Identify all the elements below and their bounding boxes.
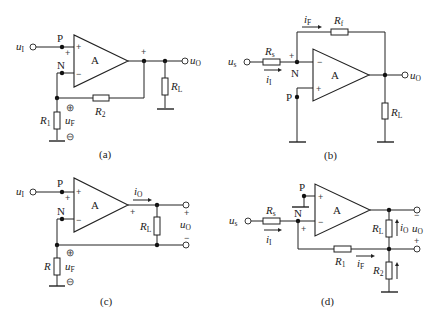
node-p (60, 45, 64, 49)
resistor-r (54, 258, 60, 275)
svg-text:RL: RL (139, 220, 152, 234)
svg-text:us: us (229, 214, 238, 228)
input-terminal (245, 218, 251, 224)
svg-text:uI: uI (16, 40, 25, 54)
svg-text:iO: iO (134, 185, 143, 199)
resistor-r2 (93, 95, 109, 101)
resistor-rs (263, 59, 280, 65)
svg-text:us: us (228, 55, 237, 69)
svg-text:P: P (57, 32, 63, 44)
svg-text:+: + (130, 207, 135, 217)
resistor-rf (331, 29, 348, 35)
svg-text:−: − (76, 215, 81, 225)
node-p (295, 95, 299, 99)
svg-text:iI: iI (266, 233, 272, 247)
svg-text:⊖: ⊖ (66, 276, 74, 287)
svg-text:iO: iO (400, 221, 409, 235)
output-terminal-plus (414, 246, 420, 252)
svg-text:−: − (414, 210, 419, 220)
svg-text:iI: iI (266, 73, 272, 87)
resistor-rs (263, 218, 280, 224)
input-terminal (30, 44, 36, 50)
svg-text:⊖: ⊖ (66, 131, 74, 142)
svg-text:RL: RL (170, 80, 183, 94)
svg-text:R1: R1 (39, 114, 51, 128)
svg-text:−: − (318, 217, 323, 227)
svg-text:⊕: ⊕ (66, 247, 74, 258)
resistor-r2 (386, 262, 392, 279)
svg-text:N: N (294, 207, 302, 219)
svg-text:R2: R2 (372, 264, 384, 278)
svg-text:+: + (76, 187, 81, 197)
svg-text:R: R (43, 260, 51, 272)
svg-text:R2: R2 (94, 105, 106, 119)
resistor-rl (162, 78, 168, 95)
circuit-c: uI P N + + − A + iO RL + uO − R uF ⊕ ⊖ (… (16, 177, 192, 308)
circuit-figure: uI P N + + − A + uO RL R2 R1 uF ⊕ ⊖ (a) (0, 0, 439, 320)
svg-text:P: P (57, 177, 63, 189)
svg-text:⊕: ⊕ (66, 102, 74, 113)
svg-text:−: − (317, 57, 322, 67)
svg-text:−: − (76, 69, 81, 79)
svg-text:RL: RL (390, 106, 403, 120)
op-amp (74, 35, 128, 87)
svg-text:uI: uI (16, 185, 25, 199)
input-terminal (244, 59, 250, 65)
svg-text:Rf: Rf (333, 14, 344, 28)
svg-text:A: A (91, 54, 99, 66)
svg-text:Rs: Rs (265, 204, 276, 218)
resistor-r1 (334, 246, 351, 252)
caption-d: (d) (321, 295, 334, 308)
svg-text:uO: uO (180, 218, 192, 232)
svg-text:+: + (289, 51, 294, 61)
circuit-d: us Rs iI N P + + − A RL iO − uO + R1 iF … (229, 181, 424, 308)
resistor-rl (386, 220, 392, 237)
svg-text:+: + (65, 48, 70, 58)
svg-text:uO: uO (190, 54, 202, 68)
svg-text:P: P (286, 91, 292, 103)
svg-text:+: + (65, 193, 70, 203)
svg-text:+: + (316, 84, 321, 94)
svg-text:+: + (414, 236, 419, 246)
caption-b: (b) (324, 149, 337, 162)
svg-text:R1: R1 (334, 255, 346, 269)
svg-text:RL: RL (371, 222, 384, 236)
svg-text:A: A (91, 199, 99, 211)
node-n (60, 71, 64, 75)
node-n (60, 217, 64, 221)
output-terminal (402, 72, 408, 78)
circuit-b: us Rs iI iF Rf + N P − + A uO RL (b) (228, 13, 422, 162)
svg-text:uO: uO (412, 222, 424, 236)
op-amp (74, 178, 128, 232)
svg-text:uF: uF (65, 260, 75, 274)
resistor-rl (382, 103, 388, 119)
svg-text:N: N (57, 205, 65, 217)
svg-text:iF: iF (304, 13, 311, 27)
svg-text:+: + (318, 192, 323, 202)
svg-text:uO: uO (410, 69, 422, 83)
svg-text:N: N (291, 67, 299, 79)
output-terminal (182, 58, 188, 64)
svg-text:+: + (301, 224, 306, 234)
svg-text:+: + (141, 47, 146, 57)
svg-text:uF: uF (65, 114, 75, 128)
circuit-a: uI P N + + − A + uO RL R2 R1 uF ⊕ ⊖ (a) (16, 32, 202, 161)
svg-text:Rs: Rs (264, 45, 275, 59)
node-p (60, 190, 64, 194)
svg-text:A: A (331, 69, 339, 81)
caption-a: (a) (99, 148, 112, 161)
svg-text:A: A (333, 204, 341, 216)
caption-c: (c) (100, 295, 113, 308)
svg-text:iF: iF (357, 257, 364, 271)
svg-text:+: + (184, 208, 189, 218)
resistor-rl (154, 217, 160, 235)
resistor-r1 (54, 112, 60, 129)
svg-text:P: P (299, 181, 305, 193)
svg-text:+: + (76, 42, 81, 52)
input-terminal (30, 189, 36, 195)
svg-text:N: N (57, 59, 65, 71)
svg-text:−: − (184, 233, 189, 243)
node-p (302, 194, 306, 198)
